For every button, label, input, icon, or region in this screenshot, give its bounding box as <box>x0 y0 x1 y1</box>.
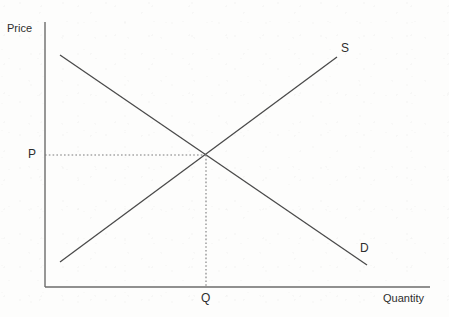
supply-curve-label: S <box>341 42 349 54</box>
y-axis-title: Price <box>7 22 32 34</box>
supply-demand-chart: Price Quantity P Q S D <box>0 0 449 317</box>
supply-curve <box>60 57 337 262</box>
equilibrium-quantity-label: Q <box>201 292 210 304</box>
chart-plot-area <box>0 0 449 317</box>
equilibrium-price-label: P <box>28 148 36 160</box>
x-axis-title: Quantity <box>383 292 424 304</box>
demand-curve-label: D <box>360 242 369 254</box>
demand-curve <box>60 55 367 265</box>
